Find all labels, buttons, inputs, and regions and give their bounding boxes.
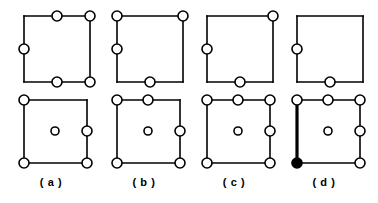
vertex-node-top-left <box>112 11 122 21</box>
diagram-a-top <box>4 4 98 90</box>
vertex-node-top-middle <box>233 95 243 105</box>
panel-column-b: ( b ) <box>97 0 191 203</box>
panel-column-c: ( c ) <box>187 0 281 203</box>
diagram-c-bottom-svg <box>187 90 281 176</box>
vertex-node-bottom-right <box>85 77 95 87</box>
vertex-node-left-middle <box>292 44 302 54</box>
panel-label-b: ( b ) <box>97 176 191 188</box>
vertex-node-top-right <box>85 11 95 21</box>
vertex-node-right-middle <box>355 126 365 136</box>
vertex-node-top-middle <box>52 11 62 21</box>
diagram-d-top <box>277 4 371 90</box>
diagram-b-top <box>97 4 191 90</box>
vertex-node-center <box>51 127 59 135</box>
diagram-a-bottom <box>4 90 98 176</box>
vertex-node-left-middle <box>202 44 212 54</box>
diagram-d-top-svg <box>277 4 371 90</box>
vertex-node-right-middle <box>82 126 92 136</box>
panel-column-d: ( d ) <box>277 0 371 203</box>
figure-root: ( a ) ( b ) ( c ) ( d ) <box>0 0 378 203</box>
diagram-c-top-svg <box>187 4 281 90</box>
vertex-node-bottom-middle <box>235 77 245 87</box>
vertex-node-bottom-right <box>82 158 92 168</box>
diagram-b-top-svg <box>97 4 191 90</box>
diagram-d-bottom-svg <box>277 90 371 176</box>
panel-column-a: ( a ) <box>4 0 98 203</box>
panel-label-c: ( c ) <box>187 176 281 188</box>
diagram-b-bottom <box>97 90 191 176</box>
vertex-node-top-left <box>292 95 302 105</box>
vertex-node-bottom-left <box>202 158 212 168</box>
panel-label-a: ( a ) <box>4 176 98 188</box>
panel-label-d: ( d ) <box>277 176 371 188</box>
vertex-node-center <box>324 127 332 135</box>
vertex-node-bottom-middle <box>325 77 335 87</box>
diagram-b-bottom-svg <box>97 90 191 176</box>
diagram-d-bottom <box>277 90 371 176</box>
diagram-a-top-svg <box>4 4 98 90</box>
vertex-node-top-left <box>112 95 122 105</box>
vertex-node-top-left <box>19 95 29 105</box>
vertex-node-top-middle <box>143 95 153 105</box>
vertex-node-bottom-middle <box>52 77 62 87</box>
vertex-node-bottom-left-filled <box>292 158 302 168</box>
vertex-node-bottom-right <box>355 158 365 168</box>
vertex-node-bottom-middle <box>145 77 155 87</box>
vertex-node-bottom-left <box>19 158 29 168</box>
vertex-node-top-left <box>202 95 212 105</box>
vertex-node-right-middle <box>265 126 275 136</box>
vertex-node-left-middle <box>19 44 29 54</box>
vertex-node-bottom-right <box>175 158 185 168</box>
vertex-node-bottom-left <box>112 158 122 168</box>
vertex-node-top-right <box>355 95 365 105</box>
diagram-c-bottom <box>187 90 281 176</box>
vertex-node-left-middle <box>112 44 122 54</box>
vertex-node-top-right <box>265 95 275 105</box>
diagram-a-bottom-svg <box>4 90 98 176</box>
vertex-node-center <box>234 127 242 135</box>
vertex-node-bottom-right <box>265 158 275 168</box>
diagram-c-top <box>187 4 281 90</box>
vertex-node-right-middle <box>175 126 185 136</box>
vertex-node-center <box>144 127 152 135</box>
vertex-node-top-middle <box>323 95 333 105</box>
